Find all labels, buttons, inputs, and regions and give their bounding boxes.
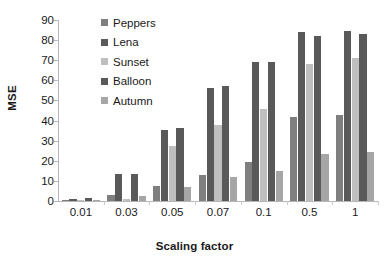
legend-label: Sunset: [113, 56, 149, 68]
bar: [359, 34, 366, 201]
bar: [252, 62, 259, 201]
bar: [123, 199, 130, 201]
bar: [199, 175, 206, 201]
bar: [276, 171, 283, 201]
y-axis-tick: [54, 201, 58, 202]
bar: [77, 200, 84, 201]
bar: [214, 125, 221, 201]
bar-group: [336, 20, 374, 201]
bar: [260, 109, 267, 202]
bar-group: [245, 20, 283, 201]
bar: [69, 199, 76, 201]
legend-label: Autumn: [113, 95, 153, 107]
x-tick-label: 0.5: [301, 206, 317, 218]
bar: [115, 174, 122, 201]
x-tick-label: 0.07: [207, 206, 229, 218]
x-tick-label: 0.05: [161, 206, 183, 218]
legend-item-sunset: Sunset: [101, 52, 211, 72]
bar: [314, 36, 321, 201]
legend-item-autumn: Autumn: [101, 91, 211, 111]
y-axis-tick-labels: 0102030405060708090: [26, 14, 54, 202]
legend-item-lena: Lena: [101, 33, 211, 53]
bar: [344, 31, 351, 201]
y-tick-label: 40: [26, 115, 54, 127]
legend-label: Lena: [113, 36, 139, 48]
bar: [161, 130, 168, 201]
y-tick-label: 10: [26, 175, 54, 187]
bar: [169, 146, 176, 201]
x-axis-tick-labels: 0.010.030.050.070.10.51: [58, 206, 378, 224]
y-axis-tick: [54, 60, 58, 61]
bar: [336, 115, 343, 201]
y-tick-label: 0: [26, 195, 54, 207]
x-axis-tick: [287, 201, 288, 205]
legend-swatch-icon: [101, 39, 108, 46]
x-tick-label: 0.01: [70, 206, 92, 218]
x-axis-tick: [241, 201, 242, 205]
y-axis-tick: [54, 161, 58, 162]
x-axis-tick: [195, 201, 196, 205]
x-axis-tick: [149, 201, 150, 205]
legend-swatch-icon: [101, 58, 108, 65]
y-tick-label: 90: [26, 14, 54, 26]
legend-swatch-icon: [101, 78, 108, 85]
y-tick-label: 80: [26, 34, 54, 46]
bar: [245, 162, 252, 201]
bar: [367, 152, 374, 201]
bar: [184, 187, 191, 201]
bar: [93, 200, 100, 201]
bar: [321, 154, 328, 201]
legend-label: Peppers: [113, 17, 156, 29]
bar: [290, 117, 297, 201]
x-axis-tick: [104, 201, 105, 205]
bar: [268, 62, 275, 201]
legend: PeppersLenaSunsetBalloonAutumn: [101, 13, 211, 111]
bar: [139, 196, 146, 201]
legend-item-balloon: Balloon: [101, 72, 211, 92]
y-axis-tick: [54, 141, 58, 142]
y-tick-label: 30: [26, 135, 54, 147]
bar-chart: MSE 0102030405060708090 0.010.030.050.07…: [0, 0, 389, 269]
y-axis-tick: [54, 100, 58, 101]
y-axis-tick: [54, 20, 58, 21]
x-tick-label: 0.03: [115, 206, 137, 218]
y-axis-tick: [54, 40, 58, 41]
x-axis-line: [58, 201, 378, 202]
y-axis-title: MSE: [6, 68, 18, 128]
y-axis-tick: [54, 181, 58, 182]
legend-swatch-icon: [101, 97, 108, 104]
legend-swatch-icon: [101, 19, 108, 26]
x-tick-label: 1: [352, 206, 358, 218]
y-axis-tick: [54, 121, 58, 122]
y-tick-label: 50: [26, 94, 54, 106]
y-axis-line: [58, 20, 59, 201]
y-tick-label: 70: [26, 54, 54, 66]
bar: [131, 174, 138, 201]
bar-group: [62, 20, 100, 201]
bar: [107, 195, 114, 201]
x-axis-tick: [378, 201, 379, 205]
y-tick-label: 20: [26, 155, 54, 167]
bar: [176, 128, 183, 201]
x-axis-title: Scaling factor: [0, 240, 389, 252]
bar-group: [290, 20, 328, 201]
legend-item-peppers: Peppers: [101, 13, 211, 33]
bar: [85, 198, 92, 201]
bar: [153, 186, 160, 201]
bar: [352, 58, 359, 201]
bar: [306, 64, 313, 201]
bar: [62, 200, 69, 201]
x-axis-tick: [332, 201, 333, 205]
y-axis-tick: [54, 80, 58, 81]
bar: [230, 177, 237, 201]
bar: [298, 32, 305, 201]
legend-label: Balloon: [113, 75, 151, 87]
y-tick-label: 60: [26, 74, 54, 86]
bar: [222, 86, 229, 201]
x-tick-label: 0.1: [256, 206, 272, 218]
